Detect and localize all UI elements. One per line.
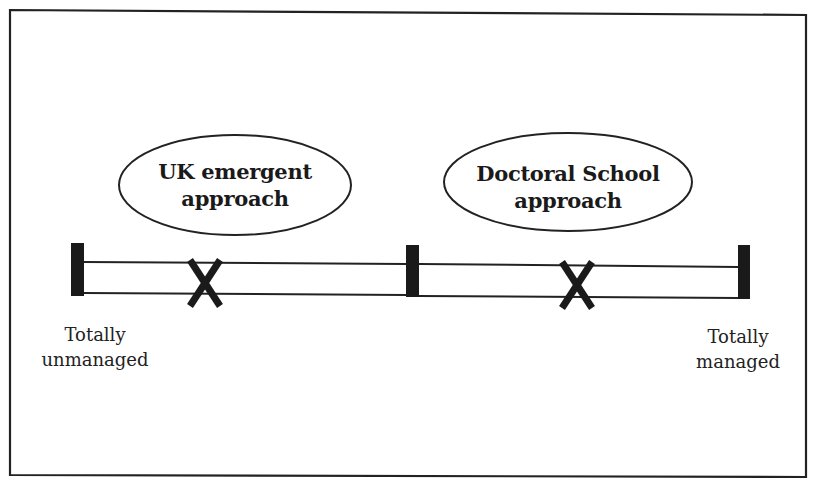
scale-rail-top-right xyxy=(419,264,738,267)
scale-tick-right-end xyxy=(738,245,750,299)
scale-rail-bottom-right xyxy=(419,296,738,298)
marker-x-uk-emergent xyxy=(190,260,220,306)
marker-label-line-2: approach xyxy=(453,187,683,214)
scale-rail-top-left xyxy=(84,262,406,264)
scale-tick-left-end xyxy=(71,243,84,296)
scale-label-right: Totally managed xyxy=(668,324,808,374)
marker-label-line-2: approach xyxy=(140,185,330,212)
diagram-canvas: UK emergent approach Doctoral School app… xyxy=(0,0,813,484)
marker-label-uk-emergent: UK emergent approach xyxy=(140,158,330,212)
scale-label-left-line-2: unmanaged xyxy=(20,347,170,372)
scale-label-left: Totally unmanaged xyxy=(20,322,170,372)
scale-rail-bottom-left xyxy=(84,293,406,295)
scale-label-right-line-1: Totally xyxy=(668,324,808,349)
diagram-svg xyxy=(0,0,813,484)
marker-label-doctoral-school: Doctoral School approach xyxy=(453,160,683,214)
marker-x-doctoral-school xyxy=(562,262,592,308)
scale-tick-midpoint xyxy=(406,245,419,297)
scale-label-right-line-2: managed xyxy=(668,349,808,374)
outer-frame xyxy=(10,10,806,477)
marker-label-line-1: Doctoral School xyxy=(453,160,683,187)
scale-label-left-line-1: Totally xyxy=(20,322,170,347)
marker-label-line-1: UK emergent xyxy=(140,158,330,185)
